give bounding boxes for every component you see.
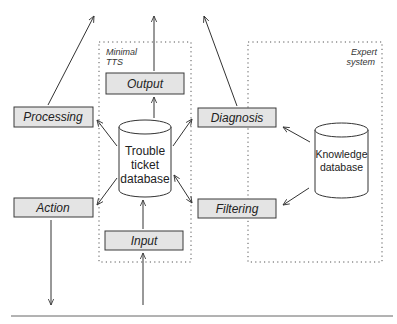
action-box: Action (14, 198, 93, 217)
minimal-tts-label-line1: Minimal (106, 47, 138, 57)
output-box: Output (106, 73, 184, 94)
system-diagram: Minimal TTS Expert system Output Process… (0, 0, 397, 324)
input-label: Input (131, 234, 158, 248)
diagnosis-box: Diagnosis (198, 108, 276, 127)
input-box: Input (105, 231, 183, 250)
knowledge-db-label-line2: database (320, 161, 363, 173)
diagnosis-label: Diagnosis (211, 111, 264, 125)
arrow-processing-out (48, 16, 94, 105)
filtering-label: Filtering (216, 202, 259, 216)
filtering-box: Filtering (198, 199, 276, 218)
output-label: Output (127, 77, 164, 91)
knowledge-database-icon: Knowledge database (315, 123, 368, 198)
action-label: Action (35, 201, 70, 215)
trouble-ticket-database-icon: Trouble ticket database (119, 120, 171, 197)
trouble-db-label-line2: ticket (131, 158, 160, 172)
minimal-tts-label-line2: TTS (106, 57, 123, 67)
arrow-db-filtering-bidirectional (174, 175, 192, 203)
trouble-db-label-line1: Trouble (125, 144, 166, 158)
expert-system-label-line2: system (346, 57, 375, 67)
arrow-db-to-processing (97, 120, 117, 146)
arrow-db-to-action (97, 178, 117, 205)
trouble-db-label-line3: database (120, 172, 170, 186)
expert-system-label-line1: Expert (351, 47, 378, 57)
arrow-kb-to-filtering (283, 188, 309, 205)
arrow-kb-to-diagnosis (283, 127, 310, 142)
knowledge-db-label-line1: Knowledge (316, 148, 368, 160)
processing-label: Processing (23, 110, 83, 124)
arrow-diagnosis-out (204, 16, 237, 106)
arrow-db-to-diagnosis (173, 119, 192, 146)
processing-box: Processing (14, 107, 93, 127)
